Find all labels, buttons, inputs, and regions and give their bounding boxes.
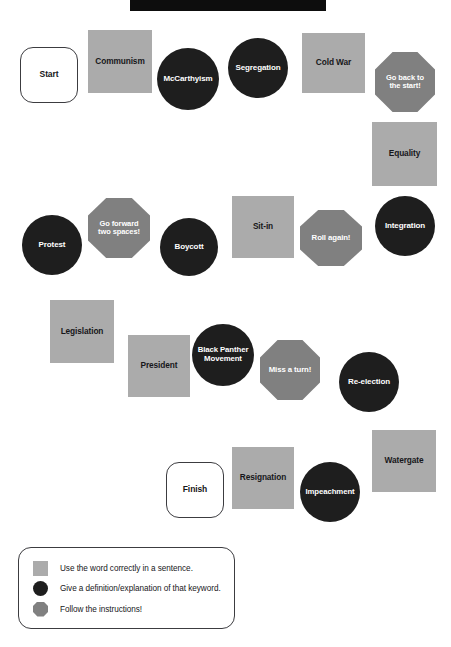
board-space-boycott[interactable]: Boycott xyxy=(160,218,218,276)
board-space-label: Boycott xyxy=(162,243,216,252)
legend-circle-swatch-icon xyxy=(33,581,48,596)
board-space-label: Black Panther Movement xyxy=(194,346,252,363)
board-space-resignation[interactable]: Resignation xyxy=(232,447,294,509)
legend-item-label: Give a definition/explanation of that ke… xyxy=(60,584,221,593)
board-space-label: McCarthyism xyxy=(159,75,217,84)
legend-key: Use the word correctly in a sentence.Giv… xyxy=(18,547,235,629)
board-space-communism[interactable]: Communism xyxy=(88,30,152,93)
legend-item-label: Use the word correctly in a sentence. xyxy=(60,564,193,573)
legend-octagon-swatch-icon xyxy=(33,602,48,617)
board-space-cold-war[interactable]: Cold War xyxy=(302,33,365,93)
board-space-go-back-to-the-start[interactable]: Go back to the start! xyxy=(375,52,435,112)
legend-square-swatch-icon xyxy=(33,561,48,576)
board-space-label: Protest xyxy=(24,241,80,250)
board-space-black-panther-movement[interactable]: Black Panther Movement xyxy=(192,324,254,386)
board-space-label: Legislation xyxy=(52,327,112,336)
legend-row: Follow the instructions! xyxy=(33,600,224,618)
board-space-label: Go forward two spaces! xyxy=(90,220,148,237)
legend-item-label: Follow the instructions! xyxy=(60,605,142,614)
legend-row: Give a definition/explanation of that ke… xyxy=(33,580,224,598)
board-space-watergate[interactable]: Watergate xyxy=(372,430,436,492)
board-space-label: Miss a turn! xyxy=(262,366,318,375)
board-space-label: Equality xyxy=(374,149,435,158)
board-game-canvas: StartCommunismMcCarthyismSegregationCold… xyxy=(0,0,451,647)
board-space-president[interactable]: President xyxy=(128,335,190,397)
board-space-label: Communism xyxy=(90,57,150,66)
board-space-integration[interactable]: Integration xyxy=(375,196,435,256)
board-space-label: Re-election xyxy=(341,378,397,387)
board-space-segregation[interactable]: Segregation xyxy=(228,38,288,98)
board-space-label: Sit-in xyxy=(234,222,292,231)
board-space-label: Start xyxy=(23,70,75,80)
title-banner xyxy=(130,0,326,11)
board-space-protest[interactable]: Protest xyxy=(22,215,82,275)
board-space-label: Watergate xyxy=(374,456,434,465)
board-space-label: Roll again! xyxy=(302,234,360,243)
board-space-label: Integration xyxy=(377,222,433,231)
board-space-mccarthyism[interactable]: McCarthyism xyxy=(157,48,219,110)
board-space-re-election[interactable]: Re-election xyxy=(339,352,399,412)
board-space-go-forward-two-spaces[interactable]: Go forward two spaces! xyxy=(88,198,150,258)
board-space-label: Resignation xyxy=(234,473,292,482)
board-space-impeachment[interactable]: Impeachment xyxy=(300,462,360,522)
board-space-legislation[interactable]: Legislation xyxy=(50,300,114,363)
board-space-label: Cold War xyxy=(304,58,363,67)
board-space-roll-again[interactable]: Roll again! xyxy=(300,210,362,266)
legend-row: Use the word correctly in a sentence. xyxy=(33,559,224,577)
board-space-label: Impeachment xyxy=(302,488,358,497)
board-space-label: President xyxy=(130,361,188,370)
board-space-equality[interactable]: Equality xyxy=(372,122,437,186)
board-space-miss-a-turn[interactable]: Miss a turn! xyxy=(260,340,320,400)
board-space-label: Finish xyxy=(169,485,221,495)
board-space-start[interactable]: Start xyxy=(20,47,78,103)
board-space-sit-in[interactable]: Sit-in xyxy=(232,196,294,258)
board-space-label: Go back to the start! xyxy=(377,74,433,91)
board-space-finish[interactable]: Finish xyxy=(166,462,224,518)
board-space-label: Segregation xyxy=(230,64,286,73)
